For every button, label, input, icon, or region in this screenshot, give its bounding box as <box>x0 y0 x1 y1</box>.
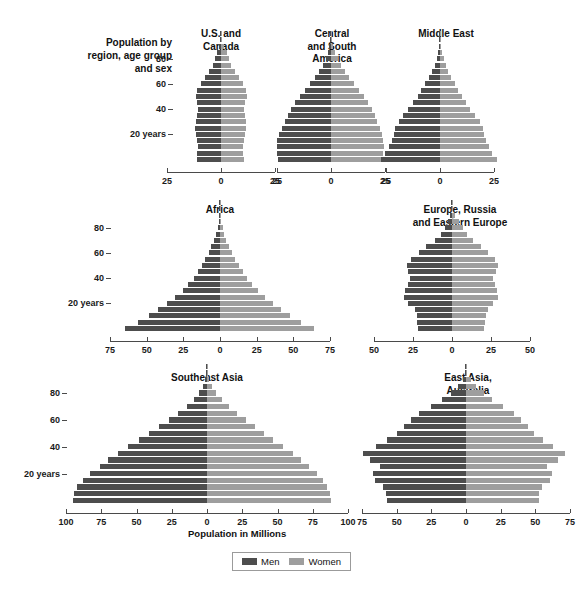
bar-women <box>221 75 239 80</box>
bar-men <box>392 138 440 143</box>
bar-women <box>207 457 301 462</box>
bar-men <box>451 200 452 205</box>
bar-women <box>452 282 495 287</box>
legend-label-women: Women <box>308 556 341 567</box>
bar-women <box>440 31 441 36</box>
bar-women <box>440 81 455 86</box>
bar-men <box>197 157 221 162</box>
bar-men <box>403 113 440 118</box>
bar-men <box>418 94 440 99</box>
bar-men <box>183 288 220 293</box>
x-axis-tick-label: 75 <box>105 345 115 355</box>
bar-men <box>277 138 331 143</box>
x-axis-tick-label: 75 <box>96 517 106 527</box>
x-axis-tick <box>440 168 441 172</box>
bar-men <box>73 498 207 503</box>
bar-women <box>331 100 368 105</box>
x-axis-tick <box>386 168 387 172</box>
x-axis-tick-label: 25 <box>167 517 177 527</box>
bar-women <box>331 151 383 156</box>
bar-women <box>452 288 497 293</box>
bar-women <box>207 370 208 375</box>
bar-men <box>197 138 221 143</box>
bar-men <box>404 424 466 429</box>
bar-men <box>450 213 452 218</box>
bar-women <box>220 295 265 300</box>
x-axis-tick-label: 25 <box>408 345 418 355</box>
bar-men <box>442 397 466 402</box>
bar-men <box>394 132 440 137</box>
x-axis-tick <box>491 337 492 341</box>
x-axis-tick <box>101 509 102 513</box>
bar-women <box>207 498 331 503</box>
bar-men <box>319 69 331 74</box>
bar-men <box>380 464 466 469</box>
bar-men <box>206 370 207 375</box>
bar-women <box>207 404 229 409</box>
y-axis-tick <box>106 303 111 304</box>
x-axis-tick-label: 25 <box>381 176 391 186</box>
bar-men <box>203 384 207 389</box>
bar-women <box>221 126 246 131</box>
bar-women <box>466 464 547 469</box>
bar-men <box>418 326 452 331</box>
bar-men <box>169 417 207 422</box>
bar-women <box>452 301 493 306</box>
x-axis-tick-label: 25 <box>496 517 506 527</box>
bar-men <box>417 320 452 325</box>
bar-men <box>435 63 440 68</box>
panel-africa: Africa755025025507520 years406080 <box>0 0 584 611</box>
bar-men <box>465 364 466 369</box>
bar-men <box>291 107 331 112</box>
bar-men <box>198 144 221 149</box>
bar-women <box>207 397 222 402</box>
bar-men <box>197 151 221 156</box>
bar-women <box>440 113 475 118</box>
x-axis-tick <box>501 509 502 513</box>
bar-men <box>159 424 207 429</box>
bar-men <box>419 250 452 255</box>
bar-women <box>466 484 542 489</box>
bar-men <box>285 119 331 124</box>
bar-women <box>221 113 245 118</box>
bar-men <box>195 126 221 131</box>
bar-women <box>440 44 441 49</box>
y-axis-tick <box>106 278 111 279</box>
x-axis-tick-label: 25 <box>237 517 247 527</box>
bar-men <box>277 144 331 149</box>
bar-women <box>207 491 330 496</box>
bar-women <box>466 471 552 476</box>
x-axis-tick <box>535 509 536 513</box>
x-axis-tick <box>257 337 258 341</box>
x-axis-tick <box>331 168 332 172</box>
bar-women <box>440 37 441 42</box>
bar-women <box>440 56 444 61</box>
bar-women <box>331 107 372 112</box>
bar-men <box>404 295 452 300</box>
x-axis-tick-label: 25 <box>380 176 390 186</box>
bar-women <box>207 484 327 489</box>
bar-men <box>220 37 221 42</box>
bar-men <box>435 238 452 243</box>
y-axis-tick-label: 40 <box>96 104 166 114</box>
bar-men <box>211 244 220 249</box>
bar-women <box>220 206 221 211</box>
x-axis-tick-label: 50 <box>272 517 282 527</box>
bar-men <box>458 384 466 389</box>
bar-women <box>331 44 333 49</box>
panel-title: East Asia, Australia <box>413 372 523 397</box>
x-axis-line <box>110 341 330 342</box>
bar-women <box>221 44 224 49</box>
x-axis-tick-label: 75 <box>308 517 318 527</box>
bar-men <box>295 100 331 105</box>
bar-women <box>440 63 446 68</box>
x-axis-tick <box>530 337 531 341</box>
bar-women <box>207 364 208 369</box>
y-axis-tick-label: 20 years <box>34 298 104 308</box>
bar-women <box>440 94 462 99</box>
x-axis-tick-label: 25 <box>489 176 499 186</box>
x-axis-tick <box>431 509 432 513</box>
bar-women <box>452 232 467 237</box>
panel-middle-east: Middle East25025 <box>0 0 584 611</box>
bar-men <box>139 437 207 442</box>
